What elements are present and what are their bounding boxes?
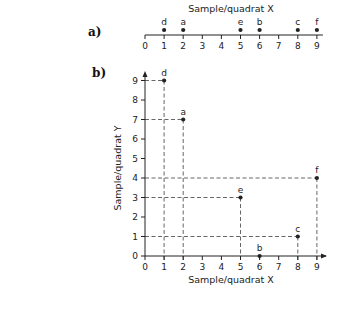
x-tick-label: 2 xyxy=(180,41,186,51)
x-tick-label: 9 xyxy=(314,262,320,272)
x-tick-label: 7 xyxy=(276,262,282,272)
x-tick-label: 5 xyxy=(238,41,244,51)
x-tick-label: 1 xyxy=(161,41,167,51)
data-point xyxy=(162,28,166,32)
data-point xyxy=(238,195,242,199)
y-tick-label: 2 xyxy=(132,212,138,222)
x-tick-label: 6 xyxy=(257,41,263,51)
panel-b-points: daebcf xyxy=(161,68,319,259)
x-tick-label: 0 xyxy=(142,41,148,51)
panel-a-label: a) xyxy=(88,25,101,39)
y-tick-label: 6 xyxy=(132,134,138,144)
point-label: f xyxy=(315,165,319,175)
panel-a: a) Sample/quadrat X 0123456789 daebcf xyxy=(88,3,323,51)
point-label: b xyxy=(257,243,263,253)
y-tick-label: 5 xyxy=(132,154,138,164)
x-tick-label: 8 xyxy=(295,262,301,272)
point-label: c xyxy=(295,224,300,234)
data-point xyxy=(181,28,185,32)
panel-a-x-axis: 0123456789 xyxy=(142,35,323,51)
data-point xyxy=(258,254,262,258)
point-label: d xyxy=(161,17,167,27)
y-tick-label: 3 xyxy=(132,193,138,203)
x-tick-label: 9 xyxy=(314,41,320,51)
point-label: a xyxy=(180,17,186,27)
x-axis-arrow-icon xyxy=(321,254,327,259)
point-label: d xyxy=(161,68,167,78)
y-tick-label: 7 xyxy=(132,115,138,125)
y-axis-arrow-icon xyxy=(143,71,148,77)
point-label: b xyxy=(257,17,263,27)
point-label: a xyxy=(180,107,186,117)
panel-b-projection-lines xyxy=(145,81,317,262)
data-point xyxy=(238,28,242,32)
x-tick-label: 4 xyxy=(219,41,225,51)
panel-a-points: daebcf xyxy=(161,17,319,32)
data-point xyxy=(258,28,262,32)
x-tick-label: 5 xyxy=(238,262,244,272)
x-tick-label: 4 xyxy=(219,262,225,272)
x-tick-label: 7 xyxy=(276,41,282,51)
x-tick-label: 0 xyxy=(142,262,148,272)
data-point xyxy=(315,176,319,180)
panel-b-label: b) xyxy=(92,66,106,80)
point-label: e xyxy=(238,17,244,27)
y-tick-label: 8 xyxy=(132,95,138,105)
x-tick-label: 3 xyxy=(199,262,205,272)
y-tick-label: 4 xyxy=(132,173,138,183)
point-label: c xyxy=(295,17,300,27)
data-point xyxy=(315,28,319,32)
y-tick-label: 9 xyxy=(132,76,138,86)
point-label: f xyxy=(315,17,319,27)
x-tick-label: 3 xyxy=(199,41,205,51)
panel-b-y-axis-title: Sample/quadrat Y xyxy=(112,125,123,210)
panel-b-axes: 01234567890123456789 xyxy=(132,71,327,272)
data-point xyxy=(296,234,300,238)
data-point xyxy=(162,78,166,82)
panel-b-x-axis-title: Sample/quadrat X xyxy=(188,274,274,285)
y-tick-label: 0 xyxy=(132,251,138,261)
point-label: e xyxy=(238,185,244,195)
x-tick-label: 1 xyxy=(161,262,167,272)
ordination-diagram: a) Sample/quadrat X 0123456789 daebcf b)… xyxy=(0,0,349,319)
panel-a-axis-title: Sample/quadrat X xyxy=(188,3,274,14)
panel-b: b) 01234567890123456789 daebcf Sample/qu… xyxy=(92,66,327,285)
data-point xyxy=(181,117,185,121)
x-tick-label: 8 xyxy=(295,41,301,51)
x-tick-label: 2 xyxy=(180,262,186,272)
data-point xyxy=(296,28,300,32)
x-tick-label: 6 xyxy=(257,262,263,272)
y-tick-label: 1 xyxy=(132,232,138,242)
